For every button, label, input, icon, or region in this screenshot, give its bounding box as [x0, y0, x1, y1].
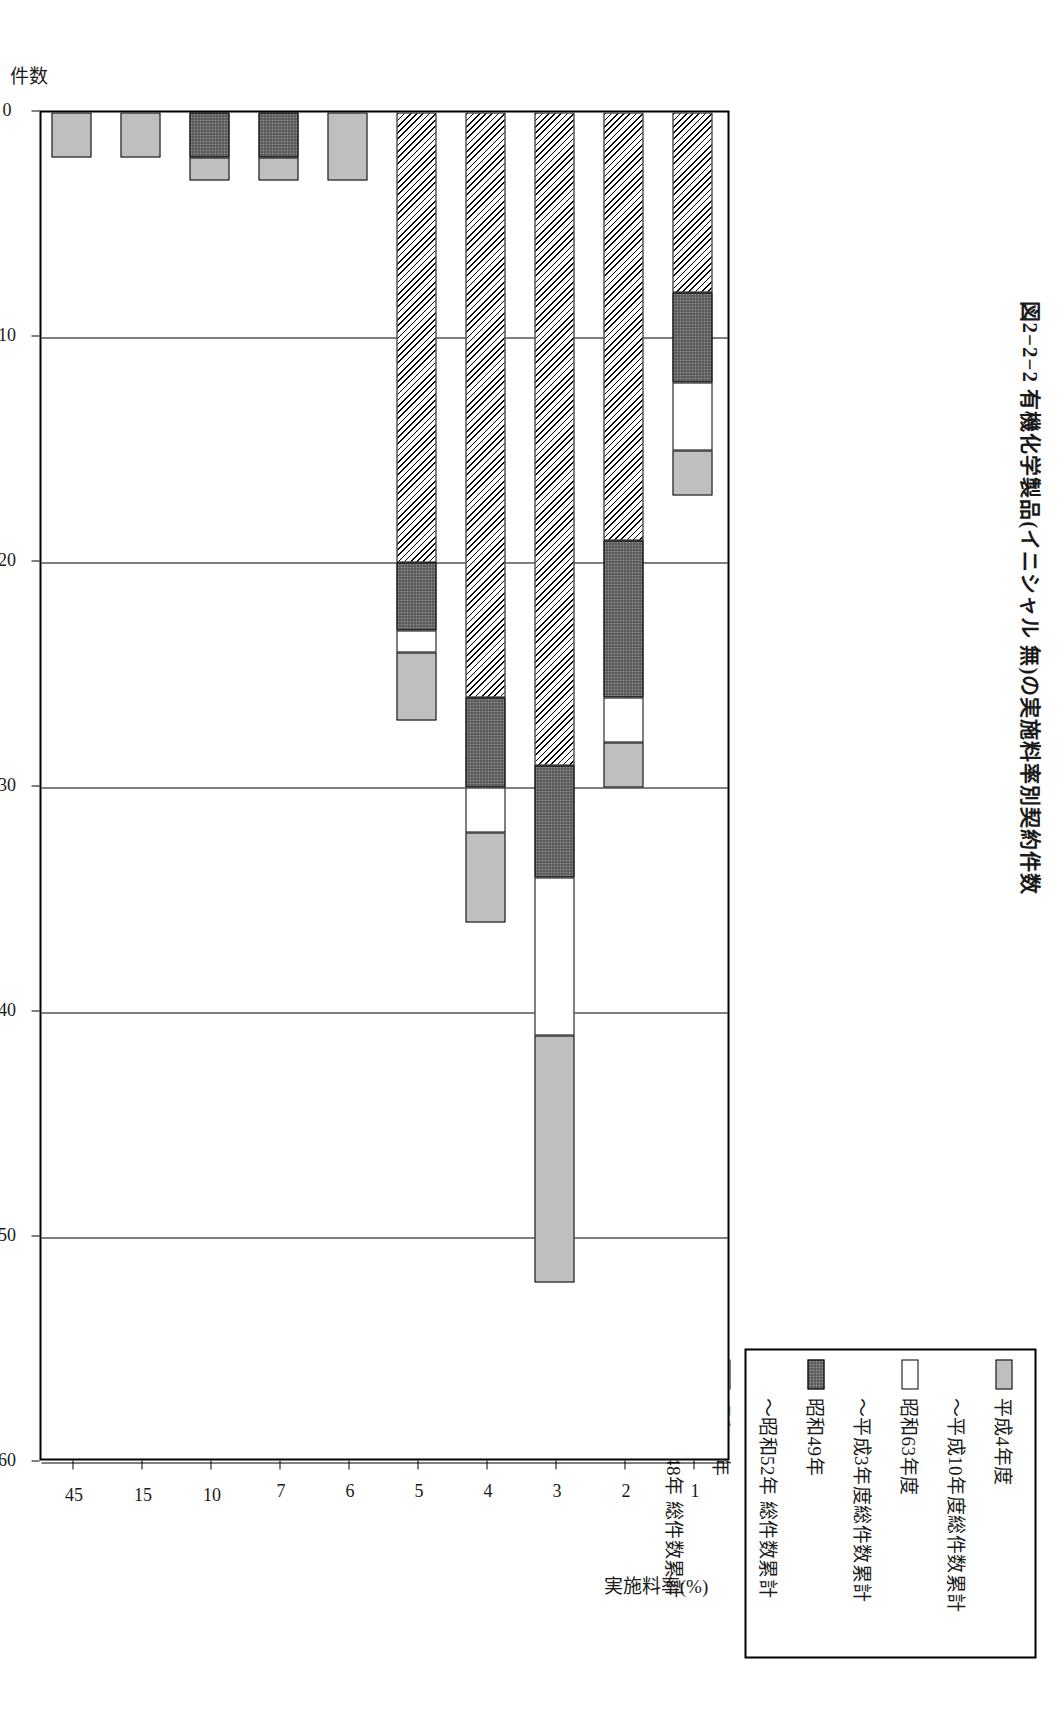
bar-segment	[466, 832, 506, 922]
bar-segment	[535, 877, 575, 1035]
value-axis-tick	[31, 1010, 39, 1011]
bar-segment	[190, 157, 230, 180]
category-axis-tick	[694, 1460, 695, 1469]
bar-group-45	[52, 112, 92, 1462]
bar-segment	[121, 112, 161, 157]
value-axis-label: 20	[0, 550, 16, 571]
bar-segment	[535, 1035, 575, 1283]
value-axis-label: 40	[0, 1000, 16, 1021]
value-axis-title: 件数	[9, 66, 47, 86]
value-axis-label: 60	[0, 1450, 16, 1471]
category-axis-tick	[487, 1460, 488, 1469]
category-axis-label: 10	[203, 1485, 221, 1506]
bar-group-15	[121, 112, 161, 1462]
category-axis-label: 3	[553, 1480, 562, 1501]
bar-segment	[466, 697, 506, 787]
value-axis-tick	[31, 785, 39, 786]
category-axis-label: 7	[277, 1480, 286, 1501]
legend-swatch-gray-solid	[995, 1359, 1012, 1389]
category-axis-tick	[142, 1460, 143, 1469]
bar-segment	[52, 112, 92, 157]
bar-segment	[397, 112, 437, 562]
bar-segment	[604, 697, 644, 742]
category-axis-label: 45	[65, 1485, 83, 1506]
bar-segment	[466, 787, 506, 832]
legend-item: 〜昭和52年 総件数累計	[745, 1359, 792, 1612]
legend-item-label: 〜昭和52年 総件数累計	[755, 1397, 782, 1598]
category-axis-tick	[73, 1460, 74, 1469]
legend-item-label: 〜平成10年度総件数累計	[943, 1397, 970, 1612]
value-axis-label: 30	[0, 775, 16, 796]
category-axis-title: 実施料率(%)	[603, 1571, 707, 1598]
bar-segment	[604, 112, 644, 540]
legend-swatch-dark-dotted	[807, 1359, 824, 1389]
bar-segment	[604, 540, 644, 698]
category-axis-tick	[418, 1460, 419, 1469]
legend-item-label: 〜平成3年度総件数累計	[849, 1397, 876, 1602]
value-axis-label: 0	[2, 100, 11, 121]
bar-segment	[535, 765, 575, 878]
value-axis-tick	[31, 110, 39, 111]
bar-segment	[673, 382, 713, 450]
bar-group-6	[328, 112, 368, 1462]
bar-segment	[328, 112, 368, 180]
page-title: 図2−2−2 有機化学製品(イニシャル 無)の実施料率別契約件数	[1016, 300, 1046, 895]
legend-item-label: 平成4年度	[990, 1397, 1017, 1485]
category-axis-label: 4	[484, 1480, 493, 1501]
legend-item: 〜平成10年度総件数累計	[933, 1359, 980, 1612]
bar-segment	[259, 112, 299, 157]
value-axis-tick	[31, 560, 39, 561]
bar-group-1	[673, 112, 713, 1462]
bar-group-2	[604, 112, 644, 1462]
category-axis-tick	[625, 1460, 626, 1469]
category-axis-label: 6	[346, 1480, 355, 1501]
value-axis-tick	[31, 335, 39, 336]
category-axis-label: 1	[691, 1480, 700, 1501]
category-axis-tick	[211, 1460, 212, 1469]
category-axis-label: 5	[415, 1480, 424, 1501]
bar-segment	[397, 562, 437, 630]
bar-segment	[673, 112, 713, 292]
category-axis-tick	[556, 1460, 557, 1469]
value-axis-label: 50	[0, 1225, 16, 1246]
category-axis-label: 2	[622, 1480, 631, 1501]
category-axis-tick	[349, 1460, 350, 1469]
legend-item: 平成4年度	[980, 1359, 1027, 1612]
category-axis-tick	[280, 1460, 281, 1469]
bar-segment	[673, 292, 713, 382]
legend-swatch-white-blank	[901, 1359, 918, 1389]
bar-segment	[190, 112, 230, 157]
bar-segment	[397, 652, 437, 720]
bar-segment	[673, 450, 713, 495]
legend-item: 昭和49年	[792, 1359, 839, 1612]
bar-segment	[259, 157, 299, 180]
bar-group-5	[397, 112, 437, 1462]
bar-segment	[535, 112, 575, 765]
bar-group-3	[535, 112, 575, 1462]
bar-segment	[604, 742, 644, 787]
bar-group-4	[466, 112, 506, 1462]
legend-item: 〜平成3年度総件数累計	[839, 1359, 886, 1612]
chart-legend: 平成4年度〜平成10年度総件数累計昭和63年度〜平成3年度総件数累計昭和49年〜…	[744, 1348, 1036, 1658]
bar-segment	[397, 630, 437, 653]
legend-item: 昭和63年度	[886, 1359, 933, 1612]
plot-area	[39, 110, 729, 1460]
bar-group-7	[259, 112, 299, 1462]
bar-segment	[466, 112, 506, 697]
bar-group-10	[190, 112, 230, 1462]
figure-page: 図2−2−2 有機化学製品(イニシャル 無)の実施料率別契約件数 平成4年度〜平…	[0, 0, 1064, 1733]
value-axis-label: 10	[0, 325, 16, 346]
value-axis-tick	[31, 1460, 39, 1461]
category-axis-label: 15	[134, 1485, 152, 1506]
value-axis-tick	[31, 1235, 39, 1236]
legend-item-label: 昭和63年度	[896, 1397, 923, 1495]
legend-item-label: 昭和49年	[802, 1397, 829, 1476]
rotated-figure-stage: 図2−2−2 有機化学製品(イニシャル 無)の実施料率別契約件数 平成4年度〜平…	[0, 0, 1064, 1733]
